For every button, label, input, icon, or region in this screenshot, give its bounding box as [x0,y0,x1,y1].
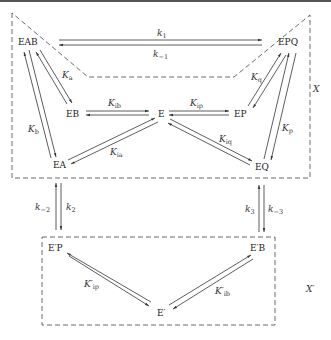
label-k3: k3 [245,204,255,216]
label-kp: Kp [281,123,293,135]
label-kq: Kq [250,72,262,84]
label-k2: k2 [66,202,76,214]
label-kib: Kib [107,98,121,110]
species-eq: EQ [255,162,269,172]
label-k-prime-ib: K′ib [214,286,230,298]
species-e-prime-b: E′B [250,243,266,253]
region-x-prime-label: X′ [305,284,314,294]
label-ka: Ka [61,70,73,82]
label-kiq: Kiq [218,134,232,146]
species-e: E [158,109,165,119]
arrow-e-to-ea [71,122,158,164]
arrow-e-prime-b-to-e-prime [173,259,253,309]
arrow-epq-to-eq [271,53,296,160]
label-k-minus-3: k−3 [268,204,283,216]
arrow-e-prime-p-to-e-prime [69,256,149,306]
species-ep: EP [234,109,247,119]
species-eb: EB [66,109,80,119]
region-x-label: X [312,84,320,94]
label-k-minus-1: k−1 [153,49,168,61]
species-e-prime-p: E′P [48,243,63,253]
species-e-prime: E′ [157,308,166,318]
species-eab: EAB [18,37,38,47]
arrow-e-prime-to-e-prime-p [67,253,151,302]
label-k-prime-ip: K′ip [83,279,99,291]
top-border [0,0,331,2]
label-kip: Kip [189,98,203,110]
arrow-eab-to-ea [29,50,56,157]
arrow-ea-to-eab [24,52,51,158]
label-k1: k1 [157,28,167,40]
label-kia: Kia [109,147,123,159]
arrow-eq-to-epq [264,53,289,159]
label-k-minus-2: k−2 [35,202,50,214]
arrow-e-to-eq [170,119,252,161]
label-kb: Kb [27,124,39,136]
arrow-eq-to-e [168,123,250,165]
species-epq: EPQ [278,37,298,47]
mechanism-diagram: X X′ EAB EPQ EB E EP EA EQ E′P E′B E′ k1… [0,0,331,340]
arrow-e-prime-to-e-prime-b [169,255,251,305]
species-ea: EA [53,160,67,170]
